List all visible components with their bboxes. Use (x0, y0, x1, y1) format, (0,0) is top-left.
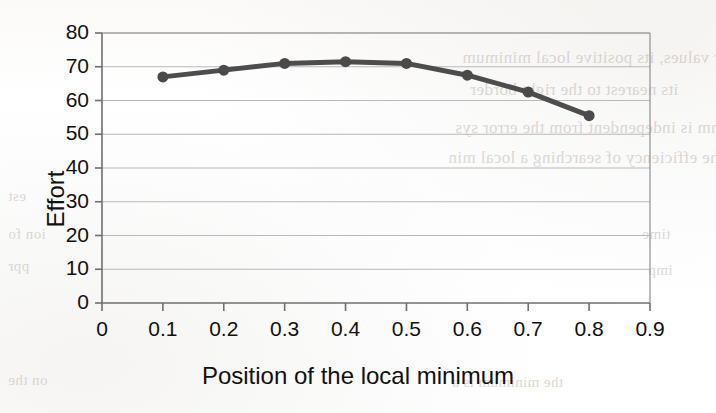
x-tick-label: 0.7 (502, 317, 554, 341)
y-tick-label: 10 (43, 256, 89, 280)
data-point-marker (401, 58, 412, 69)
x-tick-label: 0.1 (137, 317, 189, 341)
data-point-marker (462, 70, 473, 81)
x-tick-label: 0.3 (259, 317, 311, 341)
data-point-marker (523, 87, 534, 98)
x-tick-label: 0.9 (624, 317, 676, 341)
x-tick-label: 0.2 (198, 317, 250, 341)
y-tick-label: 0 (43, 290, 89, 314)
data-point-marker (584, 110, 595, 121)
y-tick-label: 80 (43, 20, 89, 44)
y-axis-title: Effort (42, 139, 70, 259)
chart-figure: 01020304050607080 00.10.20.30.40.50.60.7… (0, 0, 716, 413)
data-point-marker (218, 65, 229, 76)
data-point-marker (157, 71, 168, 82)
x-axis-title: Position of the local minimum (0, 362, 716, 390)
x-tick-label: 0 (76, 317, 128, 341)
y-tick-label: 70 (43, 54, 89, 78)
x-tick-label: 0.8 (563, 317, 615, 341)
data-point-marker (279, 58, 290, 69)
data-series-group (157, 56, 594, 121)
y-tick-label: 60 (43, 88, 89, 112)
chart-plot-svg (0, 0, 716, 413)
gridline-group (102, 33, 650, 269)
x-tick-label: 0.6 (441, 317, 493, 341)
data-point-marker (340, 56, 351, 67)
x-tick-label: 0.4 (320, 317, 372, 341)
x-tick-label: 0.5 (380, 317, 432, 341)
